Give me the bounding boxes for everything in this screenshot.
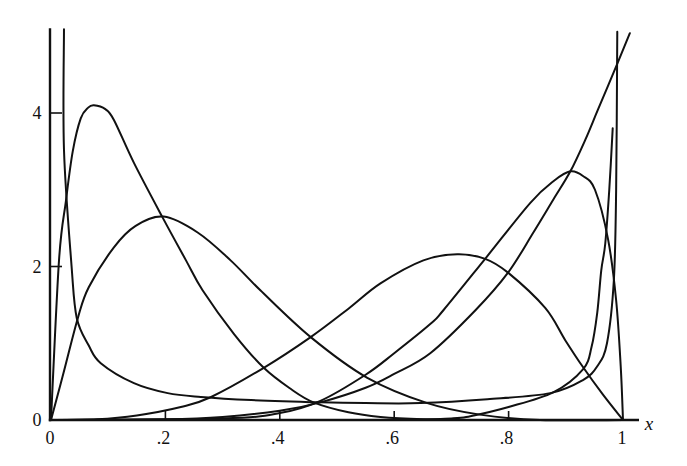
curves-group [51, 29, 630, 420]
density-curve-j [394, 128, 613, 420]
x-tick-label: .4 [271, 428, 285, 448]
x-tick-label: .2 [157, 428, 171, 448]
y-axis: 024 [33, 29, 63, 430]
density-curve-d [51, 171, 623, 420]
chart-container: 024 0.2.4.6.81 x [0, 0, 687, 466]
x-tick-label: .6 [385, 428, 399, 448]
x-tick-label: .8 [500, 428, 514, 448]
y-tick-label: 4 [33, 103, 42, 123]
x-tick-label: 0 [46, 428, 55, 448]
density-curve-a [51, 105, 623, 420]
density-curve-u [63, 29, 617, 403]
density-curve-e [51, 33, 630, 420]
y-tick-label: 0 [33, 410, 42, 430]
x-axis-label: x [644, 413, 654, 434]
y-tick-label: 2 [33, 257, 42, 277]
density-curves-chart: 024 0.2.4.6.81 x [0, 0, 687, 466]
x-tick-label: 1 [618, 428, 627, 448]
